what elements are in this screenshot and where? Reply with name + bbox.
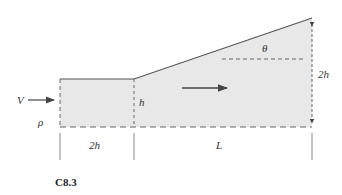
label-density: ρ (37, 116, 43, 128)
diffuser-diagram: V ρ h 2h L 2h θ C8.3 (0, 0, 342, 195)
label-inlet-height: h (139, 96, 145, 108)
fluid-region (60, 18, 312, 127)
figure-caption: C8.3 (55, 176, 77, 188)
label-inlet-length: 2h (89, 139, 101, 151)
label-velocity: V (17, 94, 25, 106)
label-outlet-height: 2h (318, 68, 330, 80)
label-angle: θ (262, 42, 268, 54)
label-diffuser-length: L (215, 139, 222, 151)
